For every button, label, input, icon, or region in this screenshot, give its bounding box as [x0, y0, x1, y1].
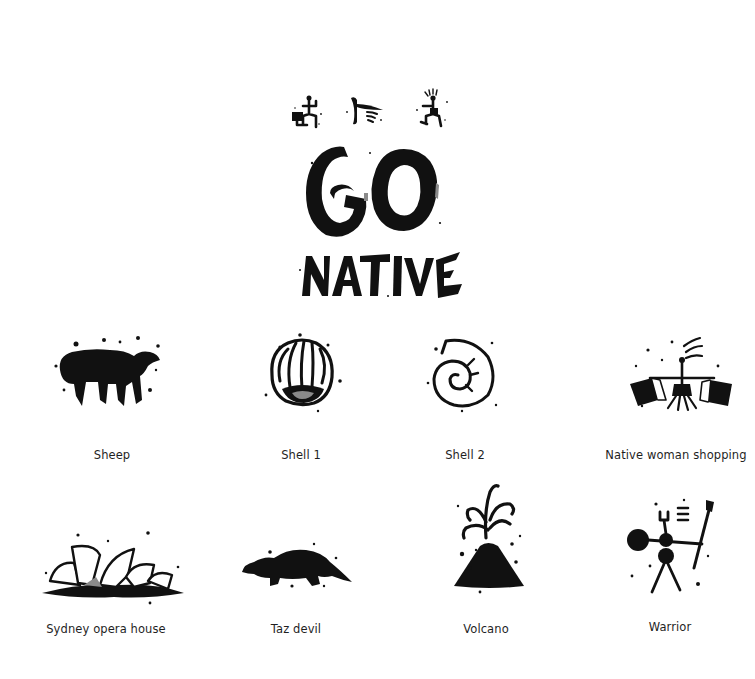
glyph-shell-1: [258, 325, 348, 415]
taz-devil-icon: [240, 542, 358, 592]
glyph-label-shell-1: Shell 1: [281, 448, 321, 462]
glyph-label-shell-2: Shell 2: [445, 448, 485, 462]
figure-with-box-right-icon: [413, 88, 453, 130]
glyph-label-taz-devil: Taz devil: [271, 622, 321, 636]
sheep-icon: [50, 330, 165, 410]
header-glyph-row: [285, 94, 465, 134]
volcano-icon: [450, 480, 530, 595]
sydney-opera-house-icon: [38, 525, 188, 605]
title-go-logo: [300, 143, 450, 241]
warrior-icon: [622, 496, 718, 596]
glyph-label-sheep: Sheep: [94, 448, 131, 462]
figure-with-box-icon: [289, 94, 329, 130]
glyph-sydney-opera-house: [38, 525, 188, 605]
glyph-taz-devil: [240, 542, 358, 592]
glyph-volcano: [450, 480, 530, 595]
glyph-warrior: [622, 496, 718, 596]
glyph-label-sydney-opera-house: Sydney opera house: [46, 622, 166, 636]
title-native-logo: [298, 250, 466, 300]
glyph-label-native-woman-shopping: Native woman shopping: [605, 448, 746, 462]
glyph-label-volcano: Volcano: [463, 622, 509, 636]
shell-1-icon: [258, 325, 348, 415]
dolphin-and-shell-icon: [343, 94, 389, 130]
glyph-sheep: [50, 330, 165, 410]
native-woman-shopping-icon: [622, 332, 740, 412]
glyph-native-woman-shopping: [622, 332, 740, 412]
glyph-label-warrior: Warrior: [649, 620, 692, 634]
shell-2-icon: [422, 333, 502, 413]
glyph-shell-2: [422, 333, 502, 413]
